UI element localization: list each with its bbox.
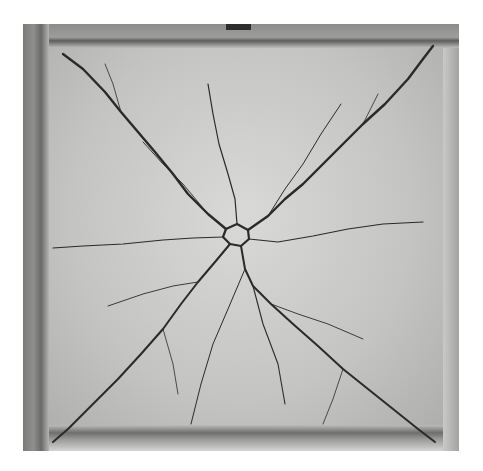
crack-pattern [23,24,459,451]
concrete-slab [23,24,459,451]
